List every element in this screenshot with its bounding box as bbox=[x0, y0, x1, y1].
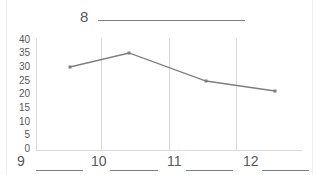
x-label: 9 bbox=[17, 153, 25, 169]
data-point-marker bbox=[128, 52, 131, 55]
x-label: 11 bbox=[167, 153, 182, 169]
line-chart-plot bbox=[0, 0, 318, 175]
x-label-blank-line bbox=[186, 170, 233, 171]
x-label: 12 bbox=[243, 153, 259, 169]
data-point-marker bbox=[69, 66, 72, 69]
x-label: 10 bbox=[91, 153, 107, 169]
x-label-blank-line bbox=[36, 170, 83, 171]
x-label-blank-line bbox=[110, 170, 158, 171]
series-line bbox=[70, 53, 275, 91]
data-point-marker bbox=[205, 80, 208, 83]
data-point-marker bbox=[274, 90, 277, 93]
x-label-blank-line bbox=[262, 170, 309, 171]
